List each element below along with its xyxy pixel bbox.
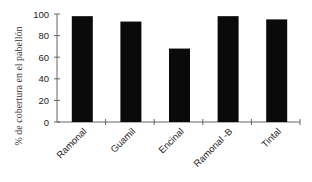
bar-encinal xyxy=(169,49,190,122)
bar-chart: % de cobertura en el pabellón 0204060801… xyxy=(0,0,312,182)
y-axis: 020406080100 xyxy=(33,9,60,128)
y-tick-label: 40 xyxy=(38,73,49,84)
x-category-label: Ramonal xyxy=(54,126,89,161)
x-category-label: Ramonal -B xyxy=(191,126,234,169)
bars xyxy=(72,16,287,122)
y-axis-title: % de cobertura en el pabellón xyxy=(13,26,24,145)
bar-tintal xyxy=(266,19,287,122)
bar-ramonal-b xyxy=(218,16,239,122)
y-tick-label: 80 xyxy=(38,30,49,41)
y-axis-title-text: % de cobertura en el pabellón xyxy=(13,26,24,145)
x-axis-labels: RamonalGuamilEncinalRamonal -BTintal xyxy=(54,126,283,169)
y-tick-label: 60 xyxy=(38,52,49,63)
y-tick-label: 20 xyxy=(38,95,49,106)
y-tick-label: 0 xyxy=(44,117,49,128)
bar-ramonal xyxy=(72,16,93,122)
x-category-label: Encinal xyxy=(156,126,186,156)
bar-guamil xyxy=(120,22,141,122)
y-tick-label: 100 xyxy=(33,9,49,20)
x-category-label: Tintal xyxy=(259,126,283,150)
x-category-label: Guamil xyxy=(108,126,137,155)
